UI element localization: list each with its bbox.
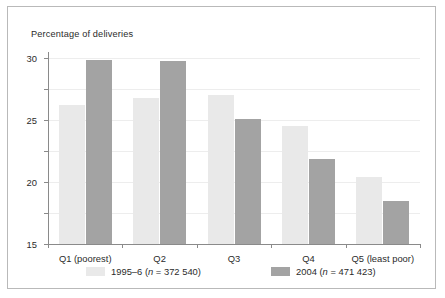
chart-legend: 1995–6 (n = 372 540)2004 (n = 471 423) [48, 266, 420, 282]
x-tick-label: Q3 [228, 253, 241, 264]
y-tick-mark: 25 [44, 89, 48, 90]
legend-item[interactable]: 2004 (n = 471 423) [271, 266, 376, 277]
plot-area: 051015202530 Q1 (poorest)Q2Q3Q4Q5 (least… [48, 58, 420, 244]
x-tick-mark [346, 244, 347, 248]
x-tick-label: Q2 [153, 253, 166, 264]
bar [383, 201, 409, 244]
bar [282, 126, 308, 244]
y-tick-mark: 30 [44, 58, 48, 59]
x-axis-line [48, 244, 420, 245]
y-tick-mark: 5 [44, 213, 48, 214]
bar [235, 119, 261, 244]
bar [160, 61, 186, 244]
legend-swatch [271, 267, 290, 276]
y-tick-mark: 10 [44, 182, 48, 183]
y-tick-label: 30 [27, 53, 37, 64]
y-axis-line [48, 52, 49, 244]
x-tick-label: Q4 [302, 253, 315, 264]
legend-item[interactable]: 1995–6 (n = 372 540) [86, 266, 201, 277]
bar [309, 159, 335, 244]
bar [208, 95, 234, 244]
x-tick-mark [48, 244, 49, 248]
x-tick-mark [420, 244, 421, 248]
bar [133, 98, 159, 244]
y-tick-mark: 20 [44, 120, 48, 121]
gridline [49, 58, 420, 59]
x-tick-mark [122, 244, 123, 248]
bar [356, 177, 382, 244]
chart-figure: Percentage of deliveries 051015202530 Q1… [7, 6, 436, 289]
legend-label: 1995–6 (n = 372 540) [111, 266, 201, 277]
y-tick-label: 25 [27, 115, 37, 126]
x-tick-mark [197, 244, 198, 248]
bar [59, 105, 85, 245]
chart-title: Percentage of deliveries [31, 29, 133, 39]
y-tick-label: 15 [27, 239, 37, 250]
legend-label: 2004 (n = 471 423) [296, 266, 376, 277]
legend-swatch [86, 267, 105, 276]
x-tick-mark [271, 244, 272, 248]
x-tick-label: Q1 (poorest) [59, 253, 112, 264]
y-tick-label: 20 [27, 177, 37, 188]
x-tick-label: Q5 (least poor) [352, 253, 415, 264]
bar [86, 60, 112, 244]
y-tick-mark: 15 [44, 151, 48, 152]
